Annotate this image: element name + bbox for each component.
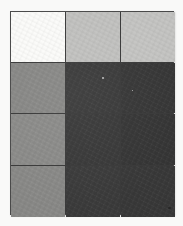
cell-r1c2[interactable] [66, 12, 120, 62]
cell-r4c2[interactable] [66, 166, 120, 217]
cell-r4c3[interactable] [121, 166, 175, 217]
cell-r1c3[interactable] [121, 12, 175, 62]
figure-root [0, 0, 183, 226]
cell-r2c1[interactable] [11, 63, 65, 113]
cell-r3c2[interactable] [66, 114, 120, 165]
cell-r2c3[interactable] [121, 63, 175, 113]
cell-r2c2[interactable] [66, 63, 120, 113]
cell-r1c1[interactable] [11, 12, 65, 62]
cell-r3c3[interactable] [121, 114, 175, 165]
cell-r3c1[interactable] [11, 114, 65, 165]
cell-r4c1[interactable] [11, 166, 65, 217]
swatch-grid [10, 11, 174, 215]
